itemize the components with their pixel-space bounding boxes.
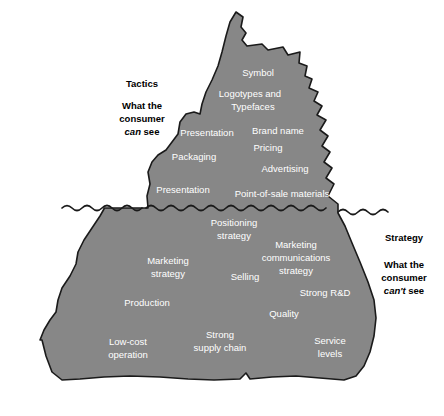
label-supply-chain-1: Strong: [206, 329, 234, 340]
label-marketing-comms-3: strategy: [279, 265, 313, 276]
label-low-cost-2: operation: [108, 349, 148, 360]
tactics-see-text: see: [141, 126, 160, 137]
tactics-can-italic: can: [125, 126, 142, 137]
label-positioning-strategy: strategy: [217, 230, 251, 241]
label-pricing: Pricing: [253, 142, 282, 153]
strategy-line-2: consumer: [381, 272, 427, 283]
label-production: Production: [124, 297, 169, 308]
label-service-levels-1: Service: [314, 335, 346, 346]
label-service-levels-2: levels: [318, 348, 343, 359]
label-quality: Quality: [269, 308, 299, 319]
strategy-line-3: can't see: [384, 285, 424, 296]
label-advertising: Advertising: [262, 163, 309, 174]
label-strong-rd: Strong R&D: [300, 287, 351, 298]
label-typefaces: Typefaces: [231, 101, 275, 112]
label-symbol: Symbol: [242, 67, 274, 78]
label-supply-chain-2: supply chain: [194, 342, 247, 353]
strategy-line-1: What the: [384, 259, 424, 270]
label-positioning: Positioning: [211, 217, 257, 228]
tactics-line-3: can see: [125, 126, 160, 137]
tactics-line-1: What the: [122, 100, 162, 111]
label-point-of-sale-materials: Point-of-sale materials: [235, 188, 330, 199]
tactics-annotation: Tactics What the consumer can see: [119, 78, 165, 137]
strategy-heading: Strategy: [385, 232, 424, 243]
iceberg-diagram: Symbol Logotypes and Typefaces Presentat…: [0, 0, 444, 416]
tactics-heading: Tactics: [126, 78, 158, 89]
label-selling: Selling: [231, 271, 260, 282]
label-packaging: Packaging: [172, 151, 216, 162]
label-presentation-lower: Presentation: [156, 184, 209, 195]
label-marketing-strategy-2: strategy: [151, 268, 185, 279]
label-marketing-comms-1: Marketing: [275, 239, 317, 250]
label-low-cost-1: Low-cost: [109, 336, 147, 347]
label-marketing-strategy-1: Marketing: [147, 255, 189, 266]
tactics-line-2: consumer: [119, 113, 165, 124]
strategy-see-text: see: [406, 285, 425, 296]
label-brand-name: Brand name: [252, 125, 304, 136]
label-logotypes-and: Logotypes and: [219, 88, 281, 99]
strategy-annotation: Strategy What the consumer can't see: [381, 232, 427, 296]
label-presentation-upper: Presentation: [180, 127, 233, 138]
waterline-right-wave: [338, 210, 388, 215]
strategy-cant-italic: can't: [384, 285, 407, 296]
label-marketing-comms-2: communications: [262, 252, 331, 263]
